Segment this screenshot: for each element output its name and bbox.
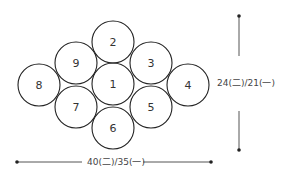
width-label: 40(二)/35(一)	[87, 157, 145, 167]
circle-number: 5	[148, 101, 155, 114]
dimension-endpoint-icon	[237, 148, 241, 152]
circle-group: 123456789	[18, 21, 209, 149]
dimension-endpoint-icon	[15, 160, 19, 164]
circle-number: 6	[110, 122, 117, 135]
motif-circle-8: 8	[18, 64, 60, 106]
motif-layout-diagram: 123456789 24(二)/21(一) 40(二)/35(一)	[0, 0, 283, 181]
motif-circle-2: 2	[92, 21, 134, 63]
height-label: 24(二)/21(一)	[217, 78, 275, 88]
circle-number: 7	[73, 101, 80, 114]
circle-number: 1	[110, 78, 117, 91]
circle-number: 2	[110, 36, 117, 49]
circle-number: 3	[148, 57, 155, 70]
circle-number: 4	[185, 79, 192, 92]
motif-circle-9: 9	[55, 42, 97, 84]
height-dimension: 24(二)/21(一)	[217, 14, 275, 152]
motif-circle-5: 5	[130, 86, 172, 128]
motif-circle-1: 1	[92, 63, 134, 105]
motif-circle-4: 4	[167, 64, 209, 106]
dimension-endpoint-icon	[237, 14, 241, 18]
motif-circle-7: 7	[55, 86, 97, 128]
circle-number: 8	[36, 79, 43, 92]
circle-number: 9	[73, 57, 80, 70]
dimension-endpoint-icon	[209, 160, 213, 164]
width-dimension: 40(二)/35(一)	[15, 157, 213, 167]
motif-circle-3: 3	[130, 42, 172, 84]
motif-circle-6: 6	[92, 107, 134, 149]
